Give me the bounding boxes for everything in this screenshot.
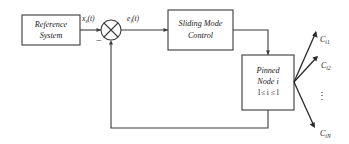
arrowhead-into-sum	[97, 28, 102, 32]
wire-controller-to-plant	[233, 30, 268, 55]
arrowhead-into-plant	[266, 51, 270, 56]
pinned-node-label-line1: Pinned	[255, 66, 280, 75]
pinned-node-index-range: 1≤ i ≤ l	[257, 88, 278, 97]
reference-system-label-line2: System	[40, 31, 63, 40]
sliding-mode-control-label-line1: Sliding Mode	[179, 19, 223, 28]
arrowhead-feedback-into-sum	[109, 40, 113, 45]
arrowhead-into-controller	[164, 28, 169, 32]
signal-error-arg: (t)	[132, 14, 140, 23]
pinned-node-label-prefix: Node	[256, 77, 275, 86]
output-label-2-sub: i2	[326, 65, 331, 71]
summing-junction-minus-sign: −	[96, 35, 102, 46]
output-label-n-sub: iN	[325, 133, 331, 139]
output-arrow-2	[294, 57, 317, 82]
reference-system-label-line1: Reference	[34, 20, 68, 29]
output-label-n: CiN	[320, 129, 331, 139]
block-diagram: Reference System xs(t) − ei(t) Sliding M…	[0, 0, 349, 144]
sliding-mode-control-label-line2: Control	[188, 31, 214, 40]
output-arrow-n	[294, 82, 314, 126]
output-label-1-sub: i1	[325, 39, 330, 45]
output-arrow-1	[294, 32, 316, 82]
signal-label-reference-output: xs(t)	[81, 14, 95, 24]
sliding-mode-control-block	[168, 10, 233, 50]
output-label-2: Ci2	[321, 61, 331, 71]
output-ellipsis: ⋮	[317, 90, 327, 101]
signal-label-error: ei(t)	[127, 14, 140, 24]
output-label-1: Ci1	[320, 35, 330, 45]
signal-reference-arg: (t)	[87, 14, 95, 23]
pinned-node-label-line2: Nodei	[256, 77, 279, 86]
output-arrowhead-1	[312, 31, 317, 38]
diagram-canvas: Reference System xs(t) − ei(t) Sliding M…	[0, 0, 349, 144]
